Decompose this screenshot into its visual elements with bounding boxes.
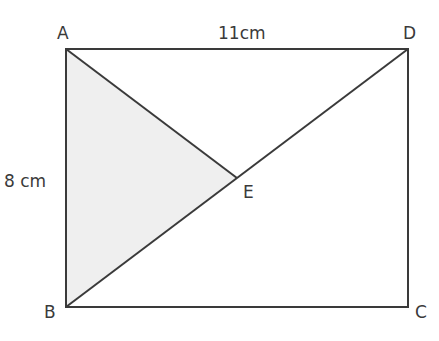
vertex-label-d: D <box>403 23 416 43</box>
dimension-label-top: 11cm <box>218 23 266 43</box>
vertex-label-b: B <box>44 302 56 322</box>
shaded-triangle-abe <box>66 49 237 307</box>
vertex-label-a: A <box>57 23 69 43</box>
vertex-label-c: C <box>415 302 427 322</box>
point-label-e: E <box>243 182 254 202</box>
dimension-label-left: 8 cm <box>4 171 46 191</box>
geometry-diagram: A D B C E 11cm 8 cm <box>0 0 439 341</box>
